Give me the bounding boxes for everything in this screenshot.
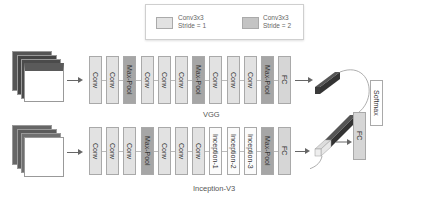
block-label: FC: [281, 75, 288, 84]
legend-label-stride2: Conv3x3 Stride = 2: [263, 14, 291, 30]
vgg-feature-vector: [315, 72, 340, 94]
inception-block-conv: Conv: [175, 127, 188, 175]
legend-swatch-stride1: [156, 17, 173, 29]
block-label: Max-Pool: [195, 65, 202, 95]
inception-block-conv: Conv: [106, 127, 119, 175]
legend-label-stride1: Conv3x3 Stride = 1: [178, 14, 206, 30]
block-label: Conv: [109, 143, 116, 159]
vgg-block-conv: Conv: [158, 56, 171, 104]
block-label: Conv: [178, 72, 185, 88]
inception-caption: Inception-V3: [193, 184, 235, 193]
block-label: Max-Pool: [126, 65, 133, 95]
arrow-head-icon: [305, 148, 310, 154]
block-label: Inception-3: [247, 134, 254, 169]
block-label: Inception-1: [212, 134, 219, 169]
vgg-block-conv: Conv: [141, 56, 154, 104]
inception-block-conv: Conv: [192, 127, 205, 175]
vgg-block-pool: Max-Pool: [192, 56, 205, 104]
vgg-caption: VGG: [203, 110, 220, 119]
legend-swatch-stride2: [242, 17, 259, 29]
block-label: Max-Pool: [264, 136, 271, 166]
inception-block-incep: Inception-3: [244, 127, 257, 175]
vgg-block-conv: Conv: [209, 56, 222, 104]
vgg-block-pool: Max-Pool: [261, 56, 274, 104]
inception-block-pool: Max-Pool: [141, 127, 154, 175]
block-label: Conv: [195, 143, 202, 159]
vgg-block-fc: FC: [278, 56, 291, 104]
inception-block-conv: Conv: [89, 127, 102, 175]
feature-fusion-graphic: [310, 60, 425, 170]
block-label: Inception-2: [230, 134, 237, 169]
block-label: Conv: [247, 72, 254, 88]
block-label: Conv: [126, 143, 133, 159]
legend: Conv3x3 Stride = 1 Conv3x3 Stride = 2: [145, 4, 304, 40]
inception-block-conv: Conv: [158, 127, 171, 175]
block-label: Conv: [144, 72, 151, 88]
block-label: Conv: [109, 72, 116, 88]
block-label: Conv: [161, 143, 168, 159]
block-label: Conv: [212, 72, 219, 88]
vgg-block-pool: Max-Pool: [123, 56, 136, 104]
inception-block-fc: FC: [278, 127, 291, 175]
block-label: Conv: [230, 72, 237, 88]
head-fc-block: FC: [353, 112, 366, 160]
block-label: Conv: [92, 72, 99, 88]
inception-block-incep: Inception-2: [227, 127, 240, 175]
arrow-head-icon: [78, 149, 83, 155]
block-label: Max-Pool: [144, 136, 151, 166]
vgg-block-conv: Conv: [244, 56, 257, 104]
block-label: Max-Pool: [264, 65, 271, 95]
concatenated-feature-vector: [315, 115, 356, 156]
block-label: FC: [281, 146, 288, 155]
softmax-block: Softmax: [370, 80, 383, 126]
inception-block-incep: Inception-1: [209, 127, 222, 175]
block-label: Conv: [178, 143, 185, 159]
block-label: Conv: [92, 143, 99, 159]
vgg-block-conv: Conv: [106, 56, 119, 104]
block-label: Conv: [161, 72, 168, 88]
inception-block-pool: Max-Pool: [261, 127, 274, 175]
vgg-block-conv: Conv: [175, 56, 188, 104]
inception-block-conv: Conv: [123, 127, 136, 175]
arrow-head-icon: [78, 77, 83, 83]
vgg-block-conv: Conv: [227, 56, 240, 104]
vgg-block-conv: Conv: [89, 56, 102, 104]
